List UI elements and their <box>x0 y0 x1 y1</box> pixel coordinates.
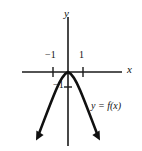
y-tick-label-neg1: −1 <box>53 80 64 90</box>
plot-canvas <box>0 0 142 151</box>
y-axis-label: y <box>64 8 69 19</box>
x-axis-label: x <box>127 64 132 75</box>
x-tick-label-neg1: −1 <box>45 50 56 60</box>
graph-figure: y x −1 1 −1 y = f(x) <box>0 0 142 151</box>
x-tick-label-pos1: 1 <box>79 50 84 60</box>
function-label: y = f(x) <box>91 101 121 111</box>
